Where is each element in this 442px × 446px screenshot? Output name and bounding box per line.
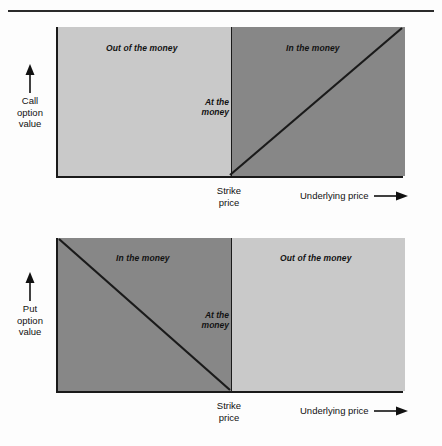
put-y-axis-label-line-2: option [7, 315, 53, 327]
call-strike-price-line-1: Strike [194, 185, 264, 197]
call-y-axis-label-line-3: value [7, 118, 53, 130]
call-x-axis-label: Underlying price [300, 190, 369, 201]
call-at-the-money-line-1: At the [141, 97, 229, 107]
put-plot-area: In the money Out of the money At the mon… [56, 238, 403, 393]
call-strike-price-line-2: price [194, 197, 264, 209]
put-y-axis-label-line-3: value [7, 326, 53, 338]
call-option-figure: Out of the money In the money At the mon… [0, 0, 442, 220]
call-out-of-the-money-label: Out of the money [106, 43, 178, 53]
call-y-axis-label-line-2: option [7, 107, 53, 119]
put-strike-divider-line [231, 238, 232, 391]
put-out-of-the-money-label: Out of the money [280, 253, 352, 263]
call-y-axis-up-arrow-icon [7, 64, 53, 94]
call-strike-price-label: Strike price [194, 185, 264, 208]
figure-page: Out of the money In the money At the mon… [0, 0, 442, 446]
put-x-axis-label-group: Underlying price [300, 405, 408, 416]
put-x-axis-label: Underlying price [300, 405, 369, 416]
call-in-the-money-label: In the money [286, 43, 340, 53]
put-strike-price-line-2: price [194, 412, 264, 424]
call-plot-area: Out of the money In the money At the mon… [56, 27, 403, 178]
call-y-axis-label-line-1: Call [7, 95, 53, 107]
call-at-the-money-line-2: money [141, 107, 229, 117]
put-strike-price-label: Strike price [194, 400, 264, 423]
put-at-the-money-line-1: At the [141, 310, 229, 320]
put-y-axis-label: Put option value [7, 303, 53, 338]
call-x-axis-label-group: Underlying price [300, 190, 408, 201]
put-at-the-money-line-2: money [141, 320, 229, 330]
put-x-axis-right-arrow-icon [374, 406, 408, 416]
put-in-the-money-label: In the money [116, 253, 170, 263]
put-at-the-money-label: At the money [141, 310, 229, 330]
call-at-the-money-label: At the money [141, 97, 229, 117]
put-strike-price-line-1: Strike [194, 400, 264, 412]
call-strike-divider-line [231, 27, 232, 176]
put-y-axis-up-arrow-icon [7, 272, 53, 302]
put-option-figure: In the money Out of the money At the mon… [0, 214, 442, 446]
put-y-axis-label-line-1: Put [7, 303, 53, 315]
call-y-axis-label: Call option value [7, 95, 53, 130]
call-x-axis-right-arrow-icon [374, 191, 408, 201]
